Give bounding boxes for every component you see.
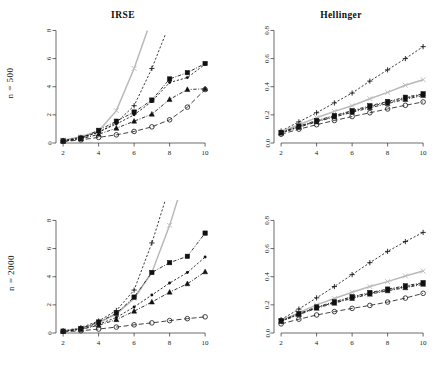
marker-dot <box>204 63 207 66</box>
x-tick-label: 2 <box>61 149 65 157</box>
series-line-cross <box>63 198 183 331</box>
marker-plus <box>385 67 390 72</box>
x-tick-label: 8 <box>386 339 390 347</box>
panel-bottom-left: 24681002468 <box>30 198 220 363</box>
x-tick-label: 10 <box>202 339 210 347</box>
series-plus <box>279 44 426 134</box>
marker-triangle <box>167 97 172 102</box>
row-label-n500: n = 500 <box>5 61 15 105</box>
plot-area-bottom-right: 2468100.00.20.40.60.8 <box>248 198 438 363</box>
y-tick-label: 0 <box>46 141 54 145</box>
axes: 24681002468 <box>46 218 210 347</box>
marker-plus <box>403 56 408 61</box>
plot-area-bottom-left: 24681002468 <box>30 198 220 363</box>
y-tick-label: 4 <box>46 274 54 278</box>
x-tick-label: 4 <box>97 149 101 157</box>
y-tick-label: 2 <box>46 303 54 307</box>
y-tick-label: 0.0 <box>264 328 272 337</box>
series-layer <box>61 30 208 143</box>
marker-plus <box>314 295 319 300</box>
y-tick-label: 8 <box>46 218 54 222</box>
y-tick-label: 0.2 <box>264 110 272 119</box>
series-dot <box>62 63 207 143</box>
marker-triangle <box>167 289 172 294</box>
series-line-triangle <box>281 284 423 321</box>
row-label-n2000: n = 2000 <box>6 249 16 297</box>
marker-dot <box>133 113 136 116</box>
marker-plus <box>350 90 355 95</box>
y-tick-label: 0.6 <box>264 54 272 63</box>
x-tick-label: 4 <box>97 339 101 347</box>
series-line-dot <box>63 257 205 331</box>
marker-plus <box>403 239 408 244</box>
plot-svg-bottom-right: 2468100.00.20.40.60.8 <box>248 198 438 363</box>
plot-content: 2468100.00.20.40.60.8 <box>264 216 428 347</box>
marker-triangle <box>114 317 119 322</box>
marker-plus <box>149 66 154 71</box>
x-tick-label: 2 <box>279 339 283 347</box>
plot-svg-top-right: 2468100.00.20.40.60.8 <box>248 8 438 173</box>
x-tick-label: 10 <box>420 339 428 347</box>
marker-dot <box>204 256 207 259</box>
series-line-dot <box>281 283 423 321</box>
marker-plus <box>421 230 426 235</box>
marker-plus <box>421 44 426 49</box>
marker-triangle <box>132 308 137 313</box>
marker-plus <box>149 240 154 245</box>
plot-content: 2468100.00.20.40.60.8 <box>264 26 428 157</box>
marker-plus <box>132 103 137 108</box>
marker-plus <box>332 100 337 105</box>
y-tick-label: 0.8 <box>264 26 272 35</box>
marker-dot <box>150 294 153 297</box>
x-tick-label: 2 <box>61 339 65 347</box>
marker-plus <box>385 249 390 254</box>
series-triangle <box>61 269 208 333</box>
figure-root: n = 500 n = 2000 IRSE 24681002468 Hellin… <box>0 0 446 375</box>
x-tick-label: 4 <box>315 149 319 157</box>
x-tick-label: 8 <box>386 149 390 157</box>
marker-square <box>203 231 207 235</box>
series-line-cross <box>63 30 147 140</box>
series-line-square <box>63 233 205 331</box>
plot-svg-bottom-left: 24681002468 <box>30 198 220 363</box>
marker-plus <box>367 260 372 265</box>
y-tick-label: 6 <box>46 246 54 250</box>
y-tick-label: 6 <box>46 56 54 60</box>
marker-circle <box>421 100 426 105</box>
axes: 2468100.00.20.40.60.8 <box>264 216 428 347</box>
marker-square <box>167 77 171 81</box>
y-tick-label: 0.4 <box>264 272 272 281</box>
axes: 2468100.00.20.40.60.8 <box>264 26 428 157</box>
marker-triangle <box>185 281 190 286</box>
plot-svg-top-left: 24681002468 <box>30 8 220 173</box>
series-cross <box>61 30 148 142</box>
panel-bottom-right: 2468100.00.20.40.60.8 <box>248 198 438 363</box>
marker-square <box>167 260 171 264</box>
x-tick-label: 2 <box>279 149 283 157</box>
series-plus <box>61 201 166 334</box>
marker-square <box>185 254 189 258</box>
y-tick-label: 0.2 <box>264 300 272 309</box>
x-tick-label: 6 <box>132 149 136 157</box>
marker-square <box>185 70 189 74</box>
axes: 24681002468 <box>46 28 210 157</box>
x-tick-label: 10 <box>202 149 210 157</box>
x-tick-label: 6 <box>350 149 354 157</box>
marker-dot <box>168 282 171 285</box>
marker-dot <box>168 81 171 84</box>
marker-square <box>114 311 118 315</box>
marker-circle <box>421 291 426 296</box>
marker-square <box>132 295 136 299</box>
y-tick-label: 0.6 <box>264 244 272 253</box>
marker-plus <box>367 78 372 83</box>
y-tick-label: 2 <box>46 113 54 117</box>
marker-triangle <box>149 299 154 304</box>
x-tick-label: 6 <box>350 339 354 347</box>
plot-area-top-right: 2468100.00.20.40.60.8 <box>248 8 438 173</box>
series-line-plus <box>281 47 423 131</box>
series-circle <box>61 315 208 335</box>
plot-content: 24681002468 <box>46 198 210 347</box>
x-tick-label: 10 <box>420 149 428 157</box>
series-square <box>61 61 207 143</box>
marker-square <box>150 270 154 274</box>
